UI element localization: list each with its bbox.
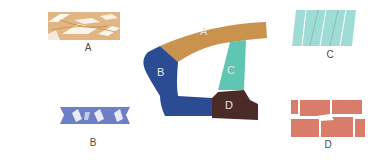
panel-a-pattern (48, 12, 120, 40)
panel-b-label: B (83, 137, 103, 148)
panel-d-pattern (291, 100, 365, 137)
region-b-label: B (157, 66, 164, 78)
region-d-label: D (225, 99, 233, 111)
diagram-canvas (0, 0, 375, 160)
region-d (212, 90, 258, 120)
panel-b-pattern (60, 107, 130, 124)
panel-c-label: C (320, 49, 340, 60)
region-a-label: A (200, 25, 207, 37)
panel-a-label: A (78, 42, 98, 53)
region-a (160, 22, 267, 62)
region-c-label: C (227, 64, 235, 76)
panel-d-label: D (318, 139, 338, 150)
panel-c-pattern (292, 10, 356, 46)
